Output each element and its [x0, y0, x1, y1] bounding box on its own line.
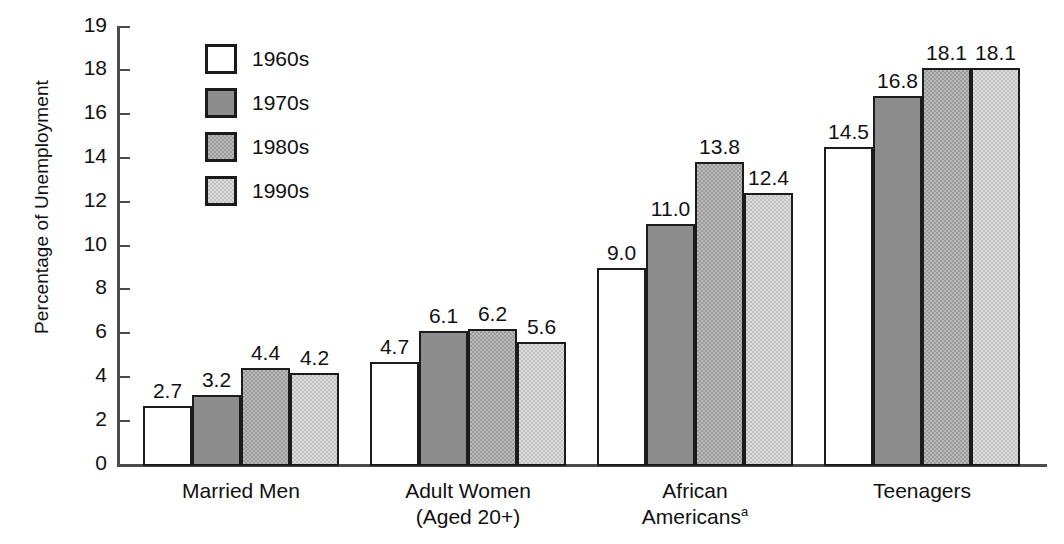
category-label-line1: Teenagers	[792, 478, 1052, 504]
bars-plot-area: 2.73.24.44.24.76.16.25.69.011.013.812.41…	[0, 0, 1064, 466]
bar[interactable]	[873, 96, 922, 466]
bar[interactable]	[922, 68, 971, 466]
bar[interactable]	[192, 395, 241, 466]
unemployment-bar-chart: Percentage of Unemployment 1918161412108…	[0, 0, 1064, 544]
bar-value-label: 11.0	[640, 197, 701, 221]
bar[interactable]	[971, 68, 1020, 466]
bar[interactable]	[143, 406, 192, 466]
bar[interactable]	[597, 268, 646, 467]
bar-value-label: 13.8	[689, 135, 750, 159]
bar[interactable]	[517, 342, 566, 466]
bar-value-label: 14.5	[818, 120, 879, 144]
category-label-line1: African	[565, 478, 825, 504]
bar[interactable]	[419, 331, 468, 466]
category-label-line2: (Aged 20+)	[338, 504, 598, 530]
category-label-line2: Americansa	[565, 504, 825, 530]
bar[interactable]	[290, 373, 339, 466]
bar-value-label: 18.1	[965, 41, 1026, 65]
bar[interactable]	[468, 329, 517, 466]
category-label: AfricanAmericansa	[565, 478, 825, 530]
bar[interactable]	[241, 368, 290, 466]
bar-value-label: 16.8	[867, 69, 928, 93]
bar-value-label: 4.7	[364, 335, 425, 359]
category-label: Adult Women(Aged 20+)	[338, 478, 598, 530]
category-label: Married Men	[111, 478, 371, 504]
bar[interactable]	[695, 162, 744, 466]
bar[interactable]	[370, 362, 419, 466]
bar[interactable]	[646, 224, 695, 466]
category-label: Teenagers	[792, 478, 1052, 504]
bar-value-label: 3.2	[186, 368, 247, 392]
bar[interactable]	[824, 147, 873, 466]
category-label-line1: Adult Women	[338, 478, 598, 504]
bar-value-label: 9.0	[591, 241, 652, 265]
bar[interactable]	[744, 193, 793, 466]
bar-value-label: 4.2	[284, 346, 345, 370]
category-label-line1: Married Men	[111, 478, 371, 504]
bar-value-label: 12.4	[738, 166, 799, 190]
bar-value-label: 5.6	[511, 315, 572, 339]
category-footnote-marker: a	[741, 504, 748, 519]
